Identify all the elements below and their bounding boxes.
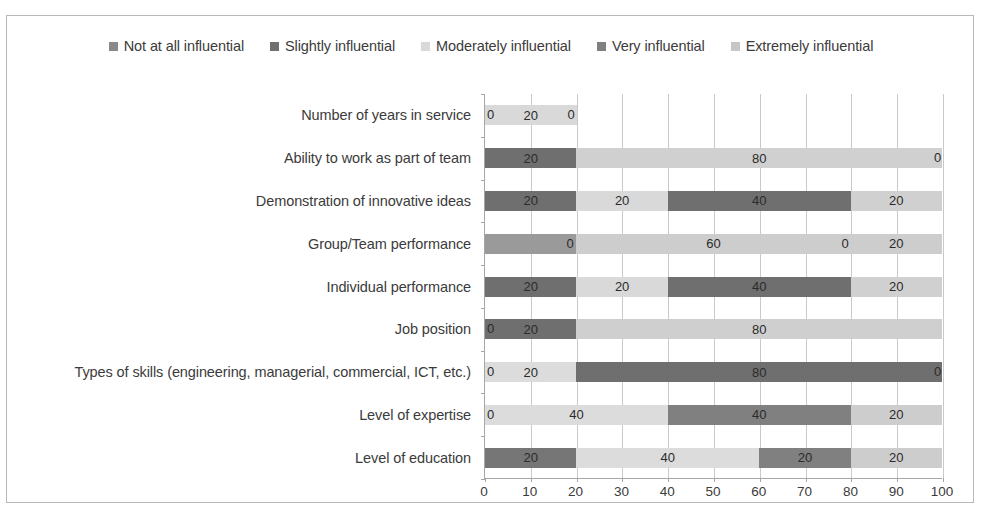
bar-row[interactable]: 602000: [485, 234, 942, 254]
y-tickmark: [481, 479, 485, 480]
x-tickmark: [531, 478, 532, 482]
legend-item-label: Slightly influential: [285, 38, 395, 54]
zero-value-label: 0: [487, 105, 494, 125]
bar-row[interactable]: 2000: [485, 105, 942, 125]
bar-segment-value-label: 60: [706, 237, 720, 250]
legend-item[interactable]: Extremely influential: [731, 38, 874, 54]
bar-segment-value-label: 20: [889, 408, 903, 421]
bar-segment[interactable]: 40: [576, 448, 759, 468]
legend-item[interactable]: Very influential: [597, 38, 705, 54]
x-axis-tick-label: 70: [797, 484, 812, 499]
legend-item[interactable]: Not at all influential: [109, 38, 244, 54]
gridline: [943, 94, 944, 478]
y-tickmark: [481, 94, 485, 95]
bar-segment[interactable]: 80: [576, 362, 942, 382]
category-label: Level of education: [355, 448, 471, 468]
bar-segment[interactable]: [485, 234, 576, 254]
bar-segment[interactable]: 20: [851, 234, 942, 254]
x-axis-tick-label: 10: [522, 484, 537, 499]
chart-container: Not at all influentialSlightly influenti…: [6, 15, 974, 503]
category-label: Demonstration of innovative ideas: [256, 191, 471, 211]
bar-segment-value-label: 20: [889, 451, 903, 464]
plot-wrapper: Number of years in serviceAbility to wor…: [7, 94, 974, 503]
x-tickmark: [622, 478, 623, 482]
legend-item[interactable]: Slightly influential: [270, 38, 395, 54]
legend-item[interactable]: Moderately influential: [421, 38, 571, 54]
bar-segment[interactable]: 20: [485, 105, 577, 125]
bar-segment[interactable]: 20: [576, 277, 667, 297]
plot-area: 2000208002020402060200020204020208002080…: [484, 94, 942, 479]
bar-segment-value-label: 40: [661, 451, 675, 464]
bar-row[interactable]: 20204020: [485, 277, 942, 297]
bar-segment[interactable]: 40: [485, 405, 668, 425]
bar-segment[interactable]: 40: [668, 277, 851, 297]
bar-segment[interactable]: 20: [485, 319, 576, 339]
bar-row[interactable]: 4040200: [485, 405, 942, 425]
bar-segment[interactable]: 20: [851, 277, 942, 297]
legend-swatch-icon: [421, 42, 430, 51]
zero-value-label: 0: [487, 405, 494, 425]
category-label: Number of years in service: [301, 105, 471, 125]
bar-segment[interactable]: 60: [576, 234, 850, 254]
zero-value-label: 0: [567, 234, 574, 254]
x-axis-tick-label: 80: [843, 484, 858, 499]
bar-segment-value-label: 20: [889, 237, 903, 250]
bar-segment[interactable]: 80: [576, 148, 942, 168]
zero-value-label: 0: [934, 148, 941, 168]
bar-segment[interactable]: 20: [485, 448, 576, 468]
bar-segment[interactable]: 20: [485, 277, 576, 297]
x-tickmark: [668, 478, 669, 482]
x-axis-tick-label: 50: [705, 484, 720, 499]
bar-row[interactable]: 20800: [485, 319, 942, 339]
bar-segment-value-label: 20: [523, 152, 537, 165]
y-tickmark: [481, 222, 485, 223]
bar-segment[interactable]: 20: [576, 191, 667, 211]
bar-row[interactable]: 20402020: [485, 448, 942, 468]
x-axis-tick-label: 20: [568, 484, 583, 499]
y-tickmark: [481, 180, 485, 181]
bar-segment[interactable]: 20: [851, 191, 942, 211]
x-tickmark: [806, 478, 807, 482]
bar-segment-value-label: 40: [752, 194, 766, 207]
bar-segment[interactable]: 20: [485, 362, 576, 382]
bar-row[interactable]: 208000: [485, 362, 942, 382]
legend-item-label: Extremely influential: [746, 38, 874, 54]
bar-segment-value-label: 80: [752, 152, 766, 165]
bar-segment[interactable]: 20: [851, 405, 942, 425]
category-label: Group/Team performance: [308, 234, 471, 254]
x-tickmark: [485, 478, 486, 482]
x-tickmark: [714, 478, 715, 482]
bar-segment-value-label: 20: [523, 366, 537, 379]
bar-segment[interactable]: 20: [759, 448, 850, 468]
category-axis-labels: Number of years in serviceAbility to wor…: [7, 94, 479, 479]
category-label: Level of expertise: [359, 405, 471, 425]
legend-swatch-icon: [731, 42, 740, 51]
legend-item-label: Very influential: [612, 38, 705, 54]
category-label: Types of skills (engineering, managerial…: [74, 362, 471, 382]
x-axis-tick-label: 30: [614, 484, 629, 499]
chart-legend: Not at all influentialSlightly influenti…: [7, 38, 974, 54]
y-tickmark: [481, 393, 485, 394]
bar-segment-value-label: 20: [523, 323, 537, 336]
bar-segment-value-label: 20: [523, 194, 537, 207]
bar-segment-value-label: 20: [889, 194, 903, 207]
bar-segment-value-label: 20: [615, 194, 629, 207]
bar-segment-value-label: 20: [524, 109, 538, 122]
legend-swatch-icon: [597, 42, 606, 51]
bar-segment[interactable]: 80: [576, 319, 942, 339]
zero-value-label: 0: [841, 234, 848, 254]
bar-segment[interactable]: 20: [851, 448, 942, 468]
bar-segment[interactable]: 40: [668, 405, 851, 425]
bar-row[interactable]: 20800: [485, 148, 942, 168]
y-tickmark: [481, 308, 485, 309]
bar-segment[interactable]: 40: [668, 191, 851, 211]
x-axis-tick-label: 90: [889, 484, 904, 499]
zero-value-label: 0: [934, 362, 941, 382]
bar-segment-value-label: 80: [752, 323, 766, 336]
y-tickmark: [481, 436, 485, 437]
y-tickmark: [481, 351, 485, 352]
bar-segment-value-label: 40: [752, 280, 766, 293]
bar-row[interactable]: 20204020: [485, 191, 942, 211]
bar-segment[interactable]: 20: [485, 191, 576, 211]
bar-segment[interactable]: 20: [485, 148, 576, 168]
